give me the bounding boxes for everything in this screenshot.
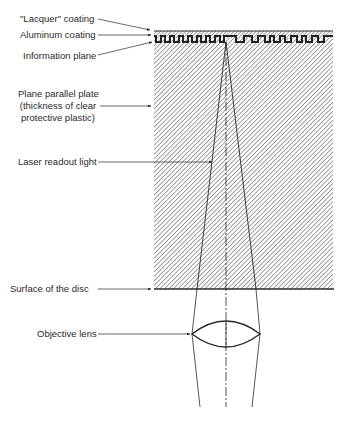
laser-readout-light-label: Laser readout light bbox=[18, 156, 97, 168]
aluminum-coating-label: Aluminum coating bbox=[20, 29, 96, 41]
laser-ray-right-bottom bbox=[252, 334, 260, 407]
information-plane-leader-arrow bbox=[98, 42, 152, 55]
laser-ray-left-lower bbox=[192, 289, 197, 334]
disc-readout-diagram: "Lacquer" coating Aluminum coating Infor… bbox=[0, 0, 348, 423]
plate-label-line-3: protective plastic) bbox=[18, 112, 98, 124]
disc-body bbox=[154, 38, 333, 289]
objective-lens-label: Objective lens bbox=[37, 328, 97, 340]
plate-label-line-1: Plane parallel plate bbox=[18, 88, 98, 100]
diagram-svg bbox=[0, 0, 348, 423]
surface-of-disc-label: Surface of the disc bbox=[10, 283, 89, 295]
laser-ray-left-bottom bbox=[192, 334, 200, 407]
lacquer-leader-arrow bbox=[98, 19, 150, 30]
lacquer-coating-label: "Lacquer" coating bbox=[20, 13, 94, 25]
plane-parallel-plate-label: Plane parallel plate (thickness of clear… bbox=[18, 88, 98, 124]
laser-ray-right-lower bbox=[256, 289, 260, 334]
plate-label-line-2: (thickness of clear bbox=[18, 100, 98, 112]
information-plane-label: Information plane bbox=[23, 50, 96, 62]
